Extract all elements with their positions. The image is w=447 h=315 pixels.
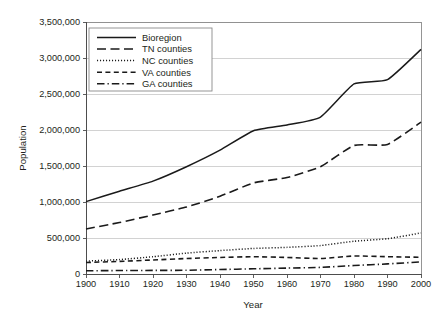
x-tick-label: 1950 — [243, 279, 263, 289]
x-axis-tick-labels: 1900191019201930194019501960197019801990… — [76, 279, 431, 289]
legend-label: GA counties — [142, 78, 193, 89]
chart-background — [0, 0, 447, 315]
y-tick-label: 2,500,000 — [39, 89, 80, 99]
population-line-chart: 0500,0001,000,0001,500,0002,000,0002,500… — [0, 0, 447, 315]
x-axis-title: Year — [243, 299, 263, 310]
x-tick-label: 1920 — [143, 279, 163, 289]
y-tick-label: 0 — [75, 269, 80, 279]
x-tick-label: 1940 — [210, 279, 230, 289]
legend-label: VA counties — [142, 67, 191, 78]
chart-canvas: 0500,0001,000,0001,500,0002,000,0002,500… — [0, 0, 447, 315]
x-tick-label: 1960 — [277, 279, 297, 289]
legend-label: TN counties — [142, 43, 192, 54]
legend-label: Bioregion — [142, 32, 182, 43]
legend-label: NC counties — [142, 55, 193, 66]
y-tick-label: 1,500,000 — [39, 161, 80, 171]
chart-legend: BioregionTN countiesNC countiesVA counti… — [89, 28, 212, 91]
y-tick-label: 500,000 — [47, 233, 80, 243]
x-tick-label: 1990 — [377, 279, 397, 289]
y-tick-label: 2,000,000 — [39, 125, 80, 135]
x-tick-label: 1970 — [310, 279, 330, 289]
x-tick-label: 1900 — [76, 279, 96, 289]
y-tick-label: 1,000,000 — [39, 197, 80, 207]
x-tick-label: 1910 — [109, 279, 129, 289]
y-tick-label: 3,500,000 — [39, 17, 80, 27]
x-tick-label: 1930 — [176, 279, 196, 289]
y-axis-title: Population — [17, 125, 28, 170]
y-tick-label: 3,000,000 — [39, 53, 80, 63]
x-tick-label: 1980 — [344, 279, 364, 289]
x-tick-label: 2000 — [411, 279, 431, 289]
